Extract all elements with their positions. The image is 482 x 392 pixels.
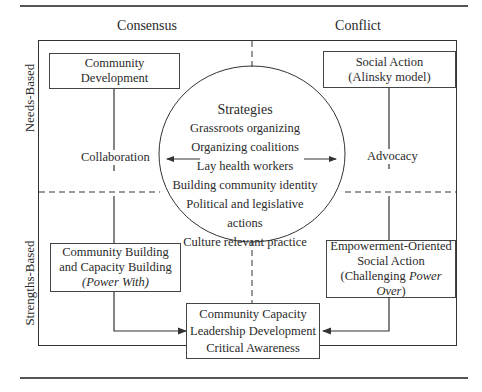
collaboration-label: Collaboration bbox=[79, 150, 152, 165]
box-line: (Challenging Power Over) bbox=[327, 269, 455, 299]
community-development-box: Community Development bbox=[49, 53, 180, 89]
box-line: (Power With) bbox=[51, 275, 180, 290]
box-line: Community Capacity bbox=[187, 306, 319, 323]
box-line: and Capacity Building bbox=[51, 260, 180, 275]
strategy-item: Lay health workers bbox=[170, 157, 320, 176]
strategies-title: Strategies bbox=[170, 100, 320, 119]
social-action-box: Social Action (Alinsky model) bbox=[323, 51, 456, 88]
strategy-item: Building community identity bbox=[170, 176, 320, 195]
strategies-ellipse: Strategies Grassroots organizing Organiz… bbox=[170, 100, 320, 252]
box-line: Empowerment-Oriented bbox=[327, 239, 455, 254]
box-line: Critical Awareness bbox=[187, 340, 319, 357]
community-building-box: Community Building and Capacity Building… bbox=[50, 243, 181, 292]
advocacy-label: Advocacy bbox=[365, 149, 420, 164]
strategy-item: Organizing coalitions bbox=[170, 138, 320, 157]
box-line: Social Action bbox=[327, 254, 455, 269]
empowerment-oriented-box: Empowerment-Oriented Social Action (Chal… bbox=[326, 240, 456, 298]
strategy-item: Grassroots organizing bbox=[170, 119, 320, 138]
box-line: Development bbox=[50, 71, 179, 86]
community-capacity-box: Community Capacity Leadership Developmen… bbox=[186, 303, 320, 359]
box-line-suffix: ) bbox=[401, 284, 405, 298]
box-line: Community bbox=[50, 56, 179, 71]
box-line: Social Action bbox=[324, 55, 455, 70]
strategy-item: Political and legislative actions bbox=[170, 195, 320, 233]
box-line: Leadership Development bbox=[187, 323, 319, 340]
box-line: (Alinsky model) bbox=[324, 70, 455, 85]
strategy-item: Culture relevant practice bbox=[170, 233, 320, 252]
box-line: Community Building bbox=[51, 245, 180, 260]
box-line-prefix: (Challenging bbox=[340, 269, 408, 283]
